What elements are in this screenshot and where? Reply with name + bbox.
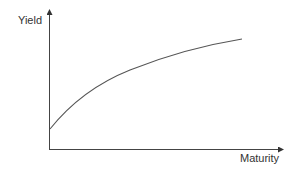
- yield-curve-line: [50, 39, 242, 129]
- y-axis-label: Yield: [18, 14, 42, 26]
- x-axis-label: Maturity: [240, 152, 279, 164]
- yield-curve-diagram: [0, 0, 299, 174]
